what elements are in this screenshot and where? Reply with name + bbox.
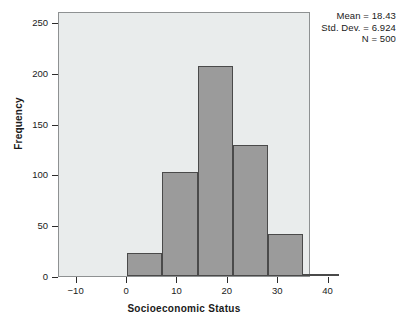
x-axis-tick [328, 277, 329, 283]
histogram-bar [162, 172, 197, 276]
y-axis-tick [52, 277, 58, 278]
x-axis-tick [76, 277, 77, 283]
x-axis-title: Socioeconomic Status [58, 303, 310, 314]
histogram-bar [233, 145, 268, 276]
y-axis-tick [52, 125, 58, 126]
stat-mean: Mean = 18.43 [321, 10, 396, 22]
x-axis-tick [227, 277, 228, 283]
y-axis-tick-label: 250 [8, 17, 48, 28]
histogram-figure: Mean = 18.43 Std. Dev. = 6.924 N = 500 F… [0, 0, 404, 333]
histogram-bar [127, 253, 162, 276]
y-axis-tick-label: 200 [8, 68, 48, 79]
y-axis-tick-label: 100 [8, 169, 48, 180]
y-axis-tick [52, 74, 58, 75]
histogram-bar [303, 274, 338, 276]
x-axis-tick [126, 277, 127, 283]
stat-std-dev: Std. Dev. = 6.924 [321, 22, 396, 34]
x-axis-tick-label: 10 [156, 285, 196, 296]
bar-series [59, 13, 309, 276]
x-axis-tick [277, 277, 278, 283]
histogram-bar [268, 234, 303, 276]
y-axis-tick-label: 50 [8, 220, 48, 231]
statistics-annotation: Mean = 18.43 Std. Dev. = 6.924 N = 500 [321, 10, 396, 45]
x-axis-tick-label: 0 [106, 285, 146, 296]
x-axis-tick [176, 277, 177, 283]
x-axis-tick-label: 30 [257, 285, 297, 296]
stat-n: N = 500 [321, 33, 396, 45]
x-axis-tick-label: 20 [207, 285, 247, 296]
x-axis-tick-label: −10 [56, 285, 96, 296]
y-axis-tick-label: 0 [8, 271, 48, 282]
y-axis-tick-label: 150 [8, 119, 48, 130]
x-axis-tick-label: 40 [308, 285, 348, 296]
y-axis-tick [52, 226, 58, 227]
histogram-bar [198, 66, 233, 276]
y-axis-tick [52, 175, 58, 176]
plot-area [58, 12, 310, 277]
y-axis-tick [52, 23, 58, 24]
